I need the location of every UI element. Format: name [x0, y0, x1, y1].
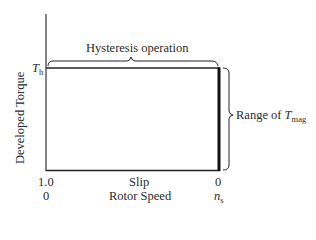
- left-speed-tick: 0: [43, 190, 49, 203]
- slip-axis-label: Slip: [129, 176, 149, 189]
- range-label-prefix: Range of: [236, 108, 285, 122]
- hysteresis-operation-label: Hysteresis operation: [86, 42, 188, 55]
- hysteresis-operation-brace: [48, 57, 218, 66]
- th-label: Th: [32, 62, 43, 77]
- range-label-main: T: [285, 108, 292, 122]
- rotor-speed-axis-label: Rotor Speed: [109, 190, 171, 203]
- right-slip-tick: 0: [215, 176, 221, 189]
- synchronous-speed-tick: ns: [214, 190, 224, 205]
- th-label-sub: h: [39, 67, 43, 77]
- ns-sub: s: [220, 195, 223, 205]
- torque-range-brace: [223, 68, 233, 170]
- y-axis-label: Developed Torque: [13, 72, 28, 164]
- range-label-sub: mag: [292, 114, 307, 124]
- th-label-main: T: [32, 61, 39, 75]
- left-slip-tick: 1.0: [38, 176, 54, 189]
- range-of-tmag-label: Range of Tmag: [236, 109, 306, 124]
